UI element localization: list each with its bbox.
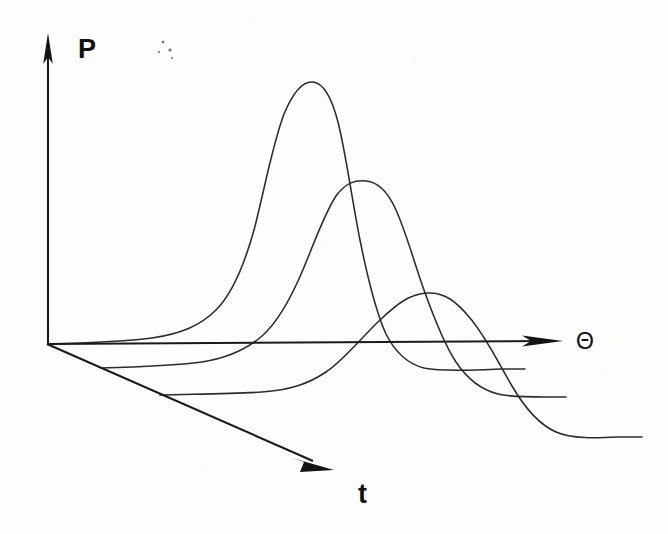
p-axis bbox=[43, 33, 53, 345]
curve-t2-path bbox=[101, 181, 566, 397]
figure-canvas: P Θ t bbox=[0, 0, 668, 534]
curve-t3 bbox=[160, 293, 642, 438]
scan-speck bbox=[162, 41, 165, 44]
theta-axis-label: Θ bbox=[576, 328, 594, 354]
t-axis-label: t bbox=[358, 479, 367, 509]
t-axis-line bbox=[47, 344, 313, 461]
curve-t2 bbox=[101, 181, 566, 397]
scan-speck bbox=[171, 57, 173, 59]
p-axis-label: P bbox=[78, 34, 96, 64]
curve-t1-path bbox=[48, 82, 525, 370]
waterfall-plot: P Θ t bbox=[0, 0, 668, 534]
curve-t1 bbox=[48, 82, 525, 370]
scan-speck bbox=[168, 48, 171, 51]
scan-speck bbox=[158, 51, 160, 53]
scan-specks bbox=[158, 41, 173, 59]
curve-t3-path bbox=[160, 293, 642, 438]
